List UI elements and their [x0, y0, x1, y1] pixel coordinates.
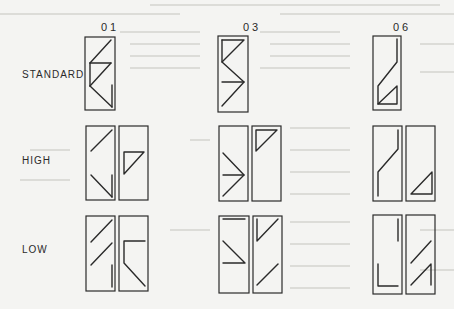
- panel-low-01-left: [86, 216, 115, 291]
- panel-high-01-left: [86, 126, 115, 200]
- panel-low-06-left: [373, 215, 402, 294]
- panel-low-03-left: [219, 216, 249, 293]
- panel-low-03-right: [253, 216, 282, 293]
- stroke-pattern-figure: [0, 0, 454, 309]
- panel-high-03-right: [252, 126, 281, 201]
- panel-low-01-right: [119, 216, 148, 291]
- panel-high-01-right: [119, 126, 148, 200]
- panel-standard-01: [85, 37, 115, 110]
- panel-high-06-right: [406, 126, 435, 201]
- panel-standard-03: [218, 36, 248, 112]
- panel-high-06-left: [373, 126, 402, 201]
- panel-low-06-right: [406, 215, 435, 294]
- panel-standard-06: [373, 36, 401, 110]
- panel-high-03-left: [219, 126, 248, 201]
